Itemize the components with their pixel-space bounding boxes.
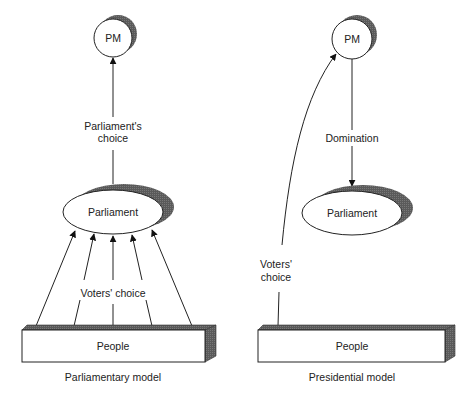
right-domination-label: Domination [325, 132, 378, 144]
left-people-side-bevel [205, 325, 216, 362]
left-voters-choice-label: Voters' choice [80, 287, 145, 299]
left-people-box: People [22, 325, 216, 362]
left-parliament-node: Parliament [63, 184, 174, 234]
left-parliament-label: Parliament [88, 206, 138, 218]
left-pm-node: PM [94, 15, 137, 57]
right-pm-label: PM [344, 33, 360, 45]
voter-arrow-1 [36, 231, 75, 326]
left-people-top-bevel [22, 325, 216, 330]
right-people-side-bevel [445, 325, 455, 362]
left-people-label: People [97, 340, 130, 352]
voter-arrow-5 [152, 230, 192, 326]
right-voters-label-2: choice [261, 271, 292, 283]
right-pm-node: PM [332, 15, 377, 59]
parliamentary-model-panel: PM Parliament's choice Parliament Voters… [22, 15, 216, 383]
right-people-box: People [258, 325, 455, 362]
presidential-model-panel: PM Domination Parliament Voters' choice … [258, 15, 455, 383]
right-voters-label-1: Voters' [260, 258, 292, 270]
right-voters-choice-arrow-tail [278, 292, 279, 326]
voter-arrow-4-tail [146, 300, 152, 326]
right-parliament-label: Parliament [327, 207, 377, 219]
left-parliament-choice-label-1: Parliament's [84, 120, 141, 132]
left-parliament-choice-label-2: choice [98, 132, 129, 144]
voter-arrow-2-tail [74, 300, 80, 326]
right-people-label: People [336, 340, 369, 352]
right-parliament-node: Parliament [302, 185, 413, 235]
voter-arrow-2 [84, 234, 94, 280]
left-caption: Parliamentary model [65, 371, 161, 383]
right-people-top-bevel [258, 325, 455, 330]
left-pm-label: PM [105, 32, 121, 44]
voter-arrow-4 [132, 235, 142, 280]
diagram-canvas: PM Parliament's choice Parliament Voters… [0, 0, 468, 395]
right-caption: Presidential model [309, 371, 395, 383]
left-voter-arrows [36, 230, 192, 326]
